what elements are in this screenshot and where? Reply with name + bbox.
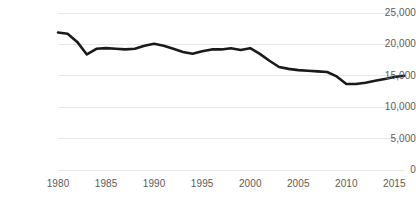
x-tick-label: 2000 xyxy=(228,178,272,189)
x-tick-label: 2005 xyxy=(276,178,320,189)
x-tick-label: 1995 xyxy=(180,178,224,189)
line-chart: 05,00010,00015,00020,00025,000 198019851… xyxy=(0,0,416,204)
x-tick-label: 2015 xyxy=(372,178,416,189)
x-axis: 19801985199019952000200520102015 xyxy=(0,0,416,204)
x-tick-label: 1990 xyxy=(132,178,176,189)
x-tick-label: 1985 xyxy=(84,178,128,189)
x-tick-label: 2010 xyxy=(324,178,368,189)
x-tick-label: 1980 xyxy=(36,178,80,189)
